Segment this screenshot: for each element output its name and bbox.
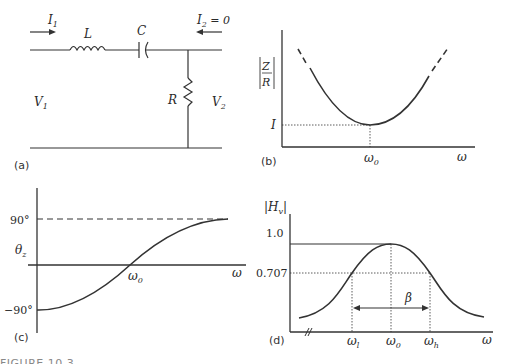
curve-dashed-left xyxy=(298,49,306,63)
impedance-curve xyxy=(310,68,429,125)
ytick-1: 1.0 xyxy=(266,227,284,240)
panel-label-d: (d) xyxy=(269,334,285,347)
ytick-90: 90° xyxy=(10,214,30,227)
panel-label-c: (c) xyxy=(14,331,29,344)
arrow-right-icon xyxy=(422,305,429,311)
xlabel-w: ω xyxy=(457,150,467,164)
xtick-w0: ω0 xyxy=(364,151,379,167)
panel-c-plot xyxy=(28,188,246,333)
label-v2: V2 xyxy=(212,95,226,111)
panel-label-b: (b) xyxy=(261,155,277,168)
panel-b-labels: Z R I ω0 ω (b) xyxy=(260,57,467,168)
figure-canvas: I1 I2 = 0 L C R V1 V2 (a) Z R I ω0 ω (b)… xyxy=(0,0,509,364)
arrow-head-icon xyxy=(49,29,56,35)
panel-c-labels: 90° −90° θz ω0 ω (c) xyxy=(4,214,242,344)
panel-a-circuit xyxy=(30,29,222,148)
xtick-w0: ω0 xyxy=(386,334,401,350)
label-capacitor: C xyxy=(137,24,146,38)
ylabel-hv: |Hv| xyxy=(264,200,287,216)
ylabel-z: Z xyxy=(261,60,270,73)
panel-b-plot xyxy=(282,30,475,147)
arrow-left-icon xyxy=(353,305,360,311)
label-v1: V1 xyxy=(34,95,48,111)
ylabel-r: R xyxy=(261,76,270,89)
transfer-curve xyxy=(299,244,484,318)
xtick-wh: ωh xyxy=(424,334,439,350)
panel-label-a: (a) xyxy=(14,159,29,172)
figure-caption: FIGURE 10.3 xyxy=(0,357,74,364)
label-resistor: R xyxy=(167,93,177,107)
curve-dashed-right xyxy=(432,48,448,71)
xlabel-w: ω xyxy=(482,333,492,347)
ytick-one: I xyxy=(270,118,276,132)
xtick-w0: ω0 xyxy=(128,269,143,285)
resistor-icon xyxy=(184,78,192,106)
xtick-wl: ωl xyxy=(347,334,360,350)
bandwidth-label: β xyxy=(404,291,412,305)
xlabel-w: ω xyxy=(232,266,242,280)
panel-d-labels: |Hv| 1.0 0.707 β ωl ω0 ωh ω (d) xyxy=(256,200,492,350)
ytick-0707: 0.707 xyxy=(256,267,288,280)
inductor-icon xyxy=(70,47,105,51)
label-i1: I1 xyxy=(47,13,58,29)
ylabel-theta: θz xyxy=(15,243,27,259)
arrow-head-icon xyxy=(196,29,203,35)
label-i2: I2 = 0 xyxy=(196,13,230,29)
label-inductor: L xyxy=(83,27,92,41)
ytick-minus-90: −90° xyxy=(4,304,33,317)
panel-d-plot xyxy=(290,214,493,336)
